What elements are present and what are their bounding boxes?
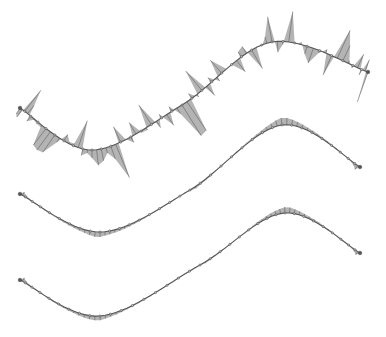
control-node	[312, 220, 314, 222]
control-node	[108, 230, 110, 232]
control-node	[18, 106, 22, 110]
control-node	[24, 196, 26, 198]
control-node	[209, 174, 211, 176]
control-node	[39, 206, 41, 208]
control-node	[120, 141, 122, 143]
control-node	[48, 297, 50, 299]
control-node	[154, 291, 156, 293]
control-node	[189, 189, 191, 191]
control-node	[158, 208, 160, 210]
control-node	[358, 251, 362, 255]
control-node	[181, 104, 183, 106]
control-node	[58, 217, 60, 219]
control-node	[179, 195, 181, 197]
control-node	[275, 214, 277, 216]
control-node	[352, 64, 354, 66]
control-node	[30, 115, 32, 117]
control-node	[271, 41, 273, 43]
control-node	[148, 214, 150, 216]
control-node	[281, 124, 283, 126]
control-node	[143, 298, 145, 300]
control-node	[219, 251, 221, 253]
control-node	[100, 148, 102, 150]
control-node	[261, 44, 263, 46]
control-node	[18, 192, 22, 196]
control-node	[171, 110, 173, 112]
control-node	[199, 182, 201, 184]
control-node	[18, 278, 22, 282]
comb-envelope	[16, 11, 369, 177]
control-node	[99, 315, 101, 317]
control-node	[360, 68, 362, 70]
control-node	[78, 312, 80, 314]
control-node	[322, 226, 324, 228]
control-node	[58, 303, 60, 305]
curve-path	[20, 125, 360, 232]
control-node	[294, 42, 296, 44]
curve-path	[20, 213, 360, 316]
comb-tooth	[357, 72, 368, 102]
control-node	[45, 127, 47, 129]
control-node	[358, 165, 362, 169]
control-node	[221, 72, 223, 74]
control-node	[110, 145, 112, 147]
control-node	[347, 244, 349, 246]
control-node	[31, 200, 33, 202]
control-node	[250, 49, 252, 51]
control-node	[330, 55, 332, 57]
control-node	[91, 149, 93, 151]
control-node	[230, 156, 232, 158]
control-node	[347, 157, 349, 159]
control-node	[331, 232, 333, 234]
control-node	[301, 127, 303, 129]
control-node	[140, 130, 142, 132]
control-node	[69, 223, 71, 225]
control-node	[150, 123, 152, 125]
control-node	[31, 286, 33, 288]
control-node	[211, 81, 213, 83]
control-node	[79, 227, 81, 229]
control-node	[342, 60, 344, 62]
control-node	[230, 64, 232, 66]
control-node	[291, 124, 293, 126]
control-node	[24, 282, 26, 284]
comb-tooth	[186, 71, 202, 90]
control-node	[72, 145, 74, 147]
control-node	[293, 213, 295, 215]
control-node	[68, 308, 70, 310]
control-node	[120, 309, 122, 311]
control-node	[118, 227, 120, 229]
control-node	[251, 138, 253, 140]
control-node	[177, 277, 179, 279]
control-node	[266, 217, 268, 219]
control-node	[24, 110, 26, 112]
control-node	[240, 56, 242, 58]
control-node	[138, 219, 140, 221]
control-node	[321, 138, 323, 140]
control-node	[128, 224, 130, 226]
control-node	[303, 215, 305, 217]
control-node	[131, 304, 133, 306]
control-node	[330, 144, 332, 146]
control-node	[241, 147, 243, 149]
control-node	[199, 264, 201, 266]
control-node	[48, 212, 50, 214]
control-node	[311, 132, 313, 134]
control-node	[54, 134, 56, 136]
control-node	[339, 151, 341, 153]
control-node	[257, 222, 259, 224]
control-node	[37, 121, 39, 123]
control-node	[282, 40, 284, 42]
control-node	[220, 165, 222, 167]
control-node	[166, 284, 168, 286]
control-node	[191, 97, 193, 99]
control-node	[306, 45, 308, 47]
control-node	[318, 50, 320, 52]
control-node	[99, 231, 101, 233]
control-node	[82, 148, 84, 150]
control-node	[229, 243, 231, 245]
control-node	[169, 201, 171, 203]
control-node	[201, 89, 203, 91]
control-node	[209, 258, 211, 260]
control-node	[340, 238, 342, 240]
